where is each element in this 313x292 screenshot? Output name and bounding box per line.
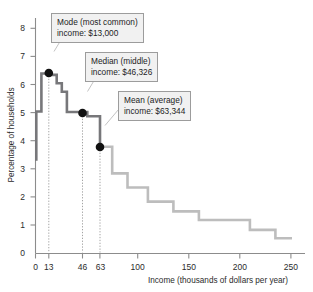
x-axis-ticks — [36, 254, 291, 259]
chart-canvas: 8 7 6 5 4 3 2 1 0 0 13 46 63 100 150 200… — [0, 0, 313, 292]
callout-mode-line2: income: $13,000 — [57, 28, 138, 39]
callout-median-line1: Median (middle) — [91, 56, 152, 67]
marker-dot-mean — [96, 143, 105, 152]
x-tick-0: 0 — [33, 262, 38, 272]
y-tick-5: 5 — [20, 108, 25, 118]
callout-median-line2: income: $46,326 — [91, 67, 152, 78]
callout-mean: Mean (average) income: $63,344 — [118, 91, 191, 121]
y-tick-1: 1 — [20, 220, 25, 230]
y-tick-4: 4 — [20, 136, 25, 146]
y-tick-8: 8 — [20, 23, 25, 33]
y-tick-0: 0 — [20, 248, 25, 258]
income-distribution-chart: 8 7 6 5 4 3 2 1 0 0 13 46 63 100 150 200… — [0, 0, 313, 292]
x-axis-tick-labels: 0 13 46 63 100 150 200 250 — [33, 262, 298, 272]
callout-mean-line1: Mean (average) — [124, 95, 185, 106]
x-tick-63: 63 — [96, 262, 106, 272]
x-axis-title: Income (thousands of dollars per year) — [148, 276, 288, 285]
callout-mean-line2: income: $63,344 — [124, 106, 185, 117]
y-tick-3: 3 — [20, 164, 25, 174]
y-tick-7: 7 — [20, 51, 25, 61]
x-tick-13: 13 — [44, 262, 54, 272]
callout-mode: Mode (most common) income: $13,000 — [51, 13, 144, 43]
marker-guide-lines — [49, 73, 100, 253]
x-tick-250: 250 — [284, 262, 298, 272]
callout-mode-line1: Mode (most common) — [57, 17, 138, 28]
step-curve-light — [100, 147, 292, 239]
callout-median: Median (middle) income: $46,326 — [85, 52, 158, 82]
x-tick-46: 46 — [78, 262, 88, 272]
y-axis-tick-labels: 8 7 6 5 4 3 2 1 0 — [20, 23, 25, 258]
y-tick-2: 2 — [20, 192, 25, 202]
marker-dot-mode — [45, 69, 54, 78]
x-tick-100: 100 — [131, 262, 145, 272]
x-tick-150: 150 — [182, 262, 196, 272]
y-axis-title: Percentage of households — [7, 87, 16, 182]
x-tick-200: 200 — [233, 262, 247, 272]
y-axis-ticks — [31, 28, 36, 225]
y-tick-6: 6 — [20, 80, 25, 90]
marker-dot-median — [78, 109, 87, 118]
